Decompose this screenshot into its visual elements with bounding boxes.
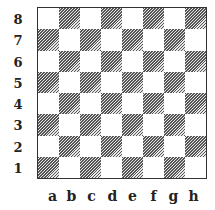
square-a2: [38, 136, 59, 157]
square-d8: [101, 8, 122, 29]
square-e8: [122, 8, 143, 29]
square-c2: [80, 136, 101, 157]
rank-label-1: 1: [10, 161, 26, 176]
square-h7: [185, 29, 206, 50]
file-label-g: g: [163, 188, 184, 204]
square-e6: [122, 51, 143, 72]
square-d6: [101, 51, 122, 72]
square-e5: [122, 72, 143, 93]
square-f4: [143, 93, 164, 114]
file-label-f: f: [143, 188, 164, 204]
square-c5: [80, 72, 101, 93]
square-g5: [164, 72, 185, 93]
square-h1: [185, 157, 206, 178]
square-h4: [185, 93, 206, 114]
square-a5: [38, 72, 59, 93]
square-f7: [143, 29, 164, 50]
square-e1: [122, 157, 143, 178]
rank-label-2: 2: [10, 140, 26, 155]
square-c7: [80, 29, 101, 50]
square-f8: [143, 8, 164, 29]
square-f2: [143, 136, 164, 157]
square-b6: [59, 51, 80, 72]
rank-label-8: 8: [10, 12, 26, 27]
square-b5: [59, 72, 80, 93]
square-g6: [164, 51, 185, 72]
square-b1: [59, 157, 80, 178]
square-d3: [101, 114, 122, 135]
rank-label-4: 4: [10, 97, 26, 112]
square-a4: [38, 93, 59, 114]
square-a1: [38, 157, 59, 178]
square-g4: [164, 93, 185, 114]
square-g1: [164, 157, 185, 178]
square-h5: [185, 72, 206, 93]
square-f1: [143, 157, 164, 178]
square-g7: [164, 29, 185, 50]
square-b7: [59, 29, 80, 50]
square-b4: [59, 93, 80, 114]
square-a7: [38, 29, 59, 50]
square-b3: [59, 114, 80, 135]
square-b8: [59, 8, 80, 29]
square-e4: [122, 93, 143, 114]
square-h2: [185, 136, 206, 157]
square-d2: [101, 136, 122, 157]
square-f5: [143, 72, 164, 93]
square-e7: [122, 29, 143, 50]
square-h3: [185, 114, 206, 135]
square-h8: [185, 8, 206, 29]
square-a3: [38, 114, 59, 135]
square-h6: [185, 51, 206, 72]
square-d5: [101, 72, 122, 93]
square-c3: [80, 114, 101, 135]
square-e2: [122, 136, 143, 157]
square-c8: [80, 8, 101, 29]
square-g3: [164, 114, 185, 135]
square-f6: [143, 51, 164, 72]
square-c6: [80, 51, 101, 72]
rank-label-5: 5: [10, 76, 26, 91]
square-b2: [59, 136, 80, 157]
file-label-a: a: [42, 188, 63, 204]
file-label-e: e: [122, 188, 143, 204]
file-label-h: h: [183, 188, 204, 204]
chessboard: [37, 7, 207, 179]
rank-label-6: 6: [10, 55, 26, 70]
square-e3: [122, 114, 143, 135]
rank-label-3: 3: [10, 118, 26, 133]
square-d7: [101, 29, 122, 50]
square-d4: [101, 93, 122, 114]
file-label-c: c: [81, 188, 102, 204]
square-a6: [38, 51, 59, 72]
square-c4: [80, 93, 101, 114]
square-a8: [38, 8, 59, 29]
file-label-d: d: [102, 188, 123, 204]
file-label-b: b: [61, 188, 82, 204]
square-g8: [164, 8, 185, 29]
square-d1: [101, 157, 122, 178]
square-g2: [164, 136, 185, 157]
square-c1: [80, 157, 101, 178]
rank-label-7: 7: [10, 33, 26, 48]
square-f3: [143, 114, 164, 135]
